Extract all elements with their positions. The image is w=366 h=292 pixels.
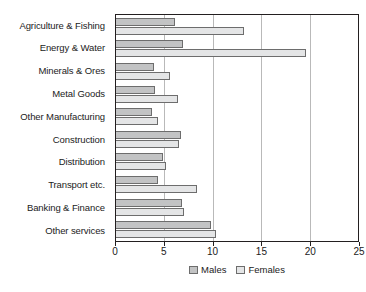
bar-chart: Agriculture & FishingEnergy & WaterMiner…	[0, 0, 366, 292]
bar-females	[116, 185, 197, 193]
bar-males	[116, 131, 181, 139]
bar-males	[116, 108, 152, 116]
bar-group	[116, 218, 358, 241]
category-axis-labels: Agriculture & FishingEnergy & WaterMiner…	[0, 14, 110, 242]
bar-males	[116, 199, 182, 207]
bar-males	[116, 153, 163, 161]
bar-group	[116, 128, 358, 151]
x-axis: 0510152025	[115, 242, 359, 260]
bar-males	[116, 40, 183, 48]
bar-group	[116, 60, 358, 83]
bar-males	[116, 86, 155, 94]
x-tick-label: 25	[353, 246, 364, 258]
bar-females	[116, 27, 244, 35]
category-label: Other services	[0, 219, 110, 242]
bar-males	[116, 221, 211, 229]
bar-group	[116, 196, 358, 219]
chart-legend: MalesFemales	[115, 264, 359, 275]
bar-females	[116, 49, 306, 57]
legend-label: Females	[248, 264, 284, 275]
legend-entry-females[interactable]: Females	[236, 264, 284, 275]
category-label: Construction	[0, 128, 110, 151]
legend-swatch-icon	[189, 266, 198, 274]
bar-group	[116, 15, 358, 38]
category-label: Other Manufacturing	[0, 105, 110, 128]
bar-group	[116, 151, 358, 174]
x-tick-label: 0	[112, 246, 118, 258]
plot-area	[115, 14, 359, 242]
category-label: Agriculture & Fishing	[0, 14, 110, 37]
category-label: Banking & Finance	[0, 196, 110, 219]
legend-swatch-icon	[236, 266, 245, 274]
bar-females	[116, 117, 158, 125]
bar-females	[116, 140, 179, 148]
category-label: Minerals & Ores	[0, 60, 110, 83]
bar-females	[116, 95, 178, 103]
bar-group	[116, 38, 358, 61]
bar-group	[116, 173, 358, 196]
category-label: Metal Goods	[0, 82, 110, 105]
bar-group	[116, 105, 358, 128]
legend-label: Males	[201, 264, 226, 275]
bar-males	[116, 63, 154, 71]
bar-males	[116, 176, 158, 184]
category-label: Energy & Water	[0, 37, 110, 60]
x-tick-label: 15	[256, 246, 267, 258]
bar-group	[116, 83, 358, 106]
bar-females	[116, 208, 184, 216]
x-tick-label: 10	[207, 246, 218, 258]
legend-entry-males[interactable]: Males	[189, 264, 226, 275]
bar-females	[116, 230, 216, 238]
bar-groups	[116, 15, 358, 241]
x-tick-label: 20	[305, 246, 316, 258]
x-tick-label: 5	[161, 246, 167, 258]
bar-males	[116, 18, 175, 26]
bar-females	[116, 72, 170, 80]
category-label: Transport etc.	[0, 174, 110, 197]
bar-females	[116, 162, 166, 170]
category-label: Distribution	[0, 151, 110, 174]
